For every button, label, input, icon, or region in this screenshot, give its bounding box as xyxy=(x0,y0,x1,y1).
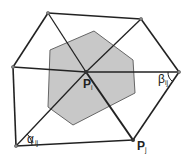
label-pj-sub: j xyxy=(144,146,147,154)
label-pj: P xyxy=(137,139,145,153)
edge-left xyxy=(13,67,16,146)
label-beta: β xyxy=(158,72,165,86)
label-pi: P xyxy=(83,77,91,91)
edge-top-right xyxy=(141,19,179,72)
label-beta-sub: ij xyxy=(165,79,169,87)
vertex-top-left xyxy=(46,11,49,14)
voronoi-cell xyxy=(48,31,135,125)
vertex-pj xyxy=(131,138,135,142)
vertex-left xyxy=(11,65,14,68)
vertex-bottom-left xyxy=(14,144,17,147)
vertex-right xyxy=(177,70,180,73)
beta-angle-arc xyxy=(168,72,172,81)
label-alpha: α xyxy=(27,132,34,146)
vertex-pi xyxy=(84,70,88,74)
voronoi-cell-diagram: P i P j α ij β ij xyxy=(0,0,191,158)
vertex-top-right xyxy=(139,17,142,20)
label-alpha-sub: ij xyxy=(35,139,39,147)
edge-bottom-right xyxy=(133,72,179,140)
edge-top-left xyxy=(13,13,48,67)
edge-top xyxy=(48,13,141,19)
